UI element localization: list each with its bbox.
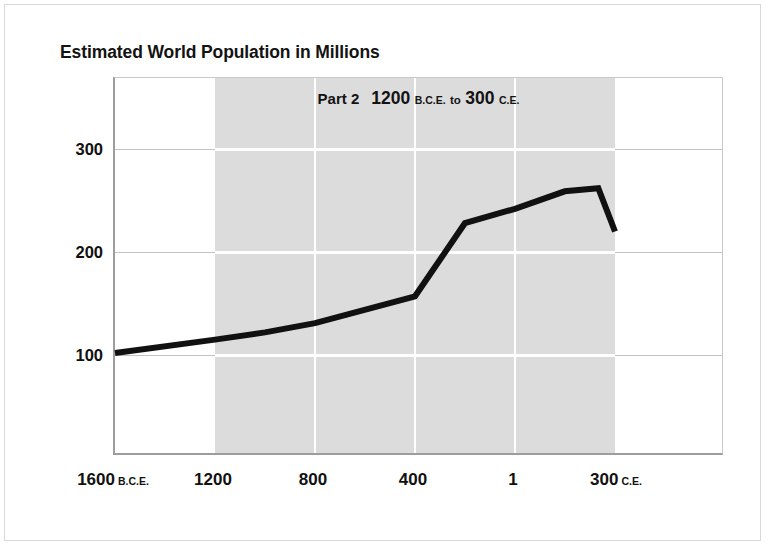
x-axis-tick-1600-bce: 1600B.C.E.: [77, 470, 149, 490]
x-axis: 1600B.C.E. 1200 800 400 1 300C.E.: [113, 470, 723, 494]
page-title: Estimated World Population in Millions: [60, 42, 380, 63]
x-axis-tick-1200-bce-number: 1200: [194, 470, 232, 489]
x-axis-tick-300-ce: 300C.E.: [590, 470, 642, 490]
x-axis-tick-year-1: 1: [508, 470, 517, 490]
x-axis-tick-800-bce: 800: [299, 470, 327, 490]
plot-area: 100 200 300 Part 21200 B.C.E. to 300 C.E…: [113, 77, 723, 455]
x-axis-tick-400-bce: 400: [399, 470, 427, 490]
x-axis-tick-1600-bce-era: B.C.E.: [118, 475, 149, 487]
x-axis-tick-300-ce-era: C.E.: [621, 475, 641, 487]
x-axis-tick-year-1-number: 1: [508, 470, 517, 489]
y-axis-tick-200: 200: [75, 243, 103, 262]
x-axis-tick-800-bce-number: 800: [299, 470, 327, 489]
chart-page: Estimated World Population in Millions 1…: [0, 0, 769, 549]
x-axis-tick-400-bce-number: 400: [399, 470, 427, 489]
x-axis-tick-1200-bce: 1200: [194, 470, 232, 490]
x-axis-tick-1600-bce-number: 1600: [77, 470, 115, 489]
population-line-series: [115, 78, 725, 456]
population-line-path: [115, 188, 615, 353]
y-axis-tick-100: 100: [75, 346, 103, 365]
y-axis-tick-300: 300: [75, 140, 103, 159]
x-axis-tick-300-ce-number: 300: [590, 470, 618, 489]
